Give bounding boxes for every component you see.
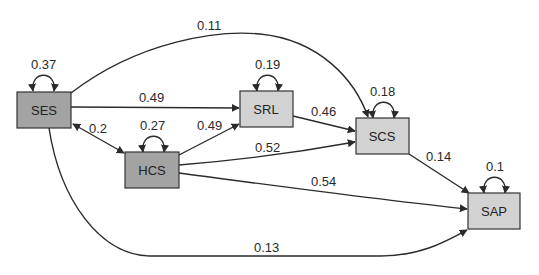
node-hcs: HCS — [125, 152, 179, 188]
edge-label-ses-scs: 0.11 — [197, 18, 221, 33]
edge-label-scs-sap: 0.14 — [426, 149, 451, 164]
variance-srl-label: 0.19 — [255, 57, 280, 72]
loop-scs — [373, 102, 394, 118]
loop-srl — [257, 75, 278, 91]
node-hcs-label: HCS — [138, 163, 166, 178]
node-sap: SAP — [468, 193, 520, 229]
path-diagram: SES HCS SRL SCS SAP 0.37 0.27 0.19 0.18 … — [0, 0, 539, 275]
node-srl: SRL — [240, 91, 293, 127]
edge-label-ses-sap: 0.13 — [254, 240, 279, 255]
variance-sap-label: 0.1 — [486, 159, 504, 174]
edge-label-srl-scs: 0.46 — [311, 104, 336, 119]
variance-ses-label: 0.37 — [31, 57, 56, 72]
edge-label-hcs-srl: 0.49 — [197, 118, 222, 133]
node-scs-label: SCS — [369, 129, 396, 144]
node-scs: SCS — [356, 118, 409, 154]
edge-label-hcs-sap: 0.54 — [311, 174, 336, 189]
edge-ses-srl — [71, 107, 239, 108]
loop-ses — [33, 75, 54, 91]
node-sap-label: SAP — [481, 204, 507, 219]
variance-scs-label: 0.18 — [370, 84, 395, 99]
edge-label-ses-srl: 0.49 — [139, 90, 164, 105]
loop-sap — [484, 177, 505, 193]
node-ses: SES — [17, 92, 71, 128]
edge-label-ses-hcs: 0.2 — [89, 121, 107, 136]
loop-hcs — [143, 136, 164, 152]
node-srl-label: SRL — [253, 102, 278, 117]
node-ses-label: SES — [31, 103, 57, 118]
edge-label-hcs-scs: 0.52 — [255, 140, 280, 155]
variance-hcs-label: 0.27 — [140, 118, 165, 133]
